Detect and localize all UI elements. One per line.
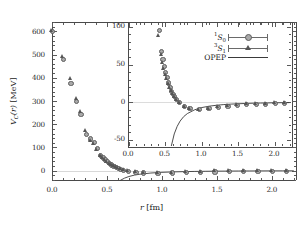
main-datapoint-3s1 [226,168,230,172]
main-y-tick [53,101,57,102]
main-y-minor-tick [294,129,296,130]
inset-datapoint-3s1 [272,100,276,104]
main-y-minor-tick [53,129,55,130]
main-y-tick [53,124,57,125]
main-x-minor-tick [294,23,295,25]
main-datapoint-3s1 [169,170,173,174]
main-y-minor-tick [53,157,55,158]
main-datapoint-3s1 [198,169,202,173]
main-datapoint-3s1 [133,169,137,173]
inset-x-minor-tick [268,23,269,25]
inset-y-ticklabel: 100 [104,21,125,30]
main-x-minor-tick [195,23,196,25]
main-x-minor-tick [195,178,196,180]
inset-x-minor-tick [187,144,188,146]
main-y-ticklabel: 600 [0,27,45,36]
main-y-minor-tick [53,45,55,46]
main-x-ticklabel: 0.0 [42,185,62,194]
main-x-tick [272,23,273,27]
inset-y-minor-tick [289,95,291,96]
inset-y-ticklabel: 50 [104,59,125,68]
main-y-tick [53,171,57,172]
inset-datapoint-3s1 [163,72,167,76]
inset-datapoint-3s1 [177,100,181,104]
main-y-minor-tick [294,138,296,139]
main-y-minor-tick [53,115,55,116]
main-x-minor-tick [228,23,229,25]
main-y-minor-tick [53,120,55,121]
main-datapoint-3s1 [78,109,82,113]
main-y-tick [292,124,296,125]
main-y-minor-tick [294,166,296,167]
inset-y-minor-tick [289,34,291,35]
main-x-tick [107,176,108,180]
inset-y-minor-tick [289,87,291,88]
main-datapoint-1s0 [68,81,73,86]
inset-y-tick [287,140,291,141]
main-x-minor-tick [140,23,141,25]
main-y-minor-tick [53,143,55,144]
legend-marker-line [228,53,268,62]
main-datapoint-3s1 [183,169,187,173]
main-datapoint-3s1 [212,168,216,172]
inset-y-minor-tick [289,117,291,118]
inset-x-minor-tick [209,144,210,146]
inset-x-tick [275,23,276,27]
inset-x-tick [129,142,130,146]
main-y-minor-tick [294,27,296,28]
inset-datapoint-3s1 [182,104,186,108]
inset-datapoint-3s1 [159,52,163,56]
main-x-minor-tick [96,178,97,180]
main-y-minor-tick [294,134,296,135]
inset-y-minor-tick [289,110,291,111]
inset-x-minor-tick [158,23,159,25]
inset-y-tick [287,102,291,103]
main-y-minor-tick [53,166,55,167]
main-y-minor-tick [294,73,296,74]
main-y-minor-tick [53,50,55,51]
inset-datapoint-3s1 [160,60,164,64]
main-x-ticklabel: 1.5 [207,185,227,194]
inset-datapoint-3s1 [164,76,168,80]
inset-x-minor-tick [180,23,181,25]
inset-x-minor-tick [195,144,196,146]
main-y-tick [292,31,296,32]
main-y-minor-tick [294,64,296,65]
inset-x-ticklabel: 0.0 [118,149,138,158]
main-x-minor-tick [63,178,64,180]
inset-x-minor-tick [253,23,254,25]
main-y-minor-tick [53,68,55,69]
main-y-minor-tick [294,45,296,46]
main-x-tick [272,176,273,180]
main-x-tick [52,176,53,180]
inset-y-minor-tick [129,110,131,111]
main-y-minor-tick [53,180,55,181]
main-datapoint-3s1 [141,170,145,174]
inset-datapoint-3s1 [166,81,170,85]
inset-y-minor-tick [289,72,291,73]
main-x-tick [217,23,218,27]
main-x-minor-tick [85,23,86,25]
main-y-minor-tick [53,152,55,153]
legend-label-opep: OPEP [196,53,226,62]
inset-datapoint-3s1 [234,102,238,106]
main-x-minor-tick [250,23,251,25]
inset-y-minor-tick [289,49,291,50]
main-y-minor-tick [53,64,55,65]
main-y-tick [53,78,57,79]
inset-x-tick [165,23,166,27]
inset-x-minor-tick [202,144,203,146]
inset-datapoint-3s1 [282,100,286,104]
inset-y-minor-tick [129,42,131,43]
main-y-minor-tick [294,110,296,111]
inset-datapoint-3s1 [244,101,248,105]
main-datapoint-3s1 [91,141,95,145]
inset-x-minor-tick [136,144,137,146]
main-x-minor-tick [151,178,152,180]
main-y-ticklabel: 0 [0,166,45,175]
main-x-minor-tick [239,23,240,25]
inset-datapoint-3s1 [161,66,165,70]
inset-datapoint-3s1 [253,101,257,105]
inset-datapoint-3s1 [206,106,210,110]
main-y-minor-tick [53,110,55,111]
